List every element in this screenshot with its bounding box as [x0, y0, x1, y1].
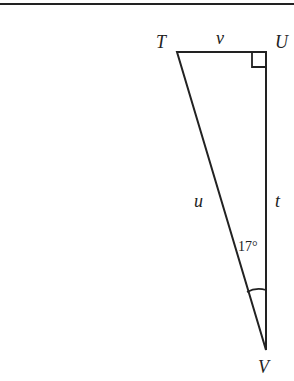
side-label-v: v [216, 28, 224, 48]
side-label-u: u [194, 191, 203, 211]
vertex-label-u: U [275, 32, 289, 52]
vertex-label-v: V [258, 357, 271, 377]
right-angle-marker [252, 52, 266, 67]
triangle-tuv [177, 52, 266, 350]
angle-arc-v [247, 289, 266, 292]
angle-label-v: 17° [238, 239, 258, 254]
triangle-diagram: T U V v u t 17° [0, 0, 294, 381]
vertex-label-t: T [156, 32, 168, 52]
side-label-t: t [275, 191, 281, 211]
